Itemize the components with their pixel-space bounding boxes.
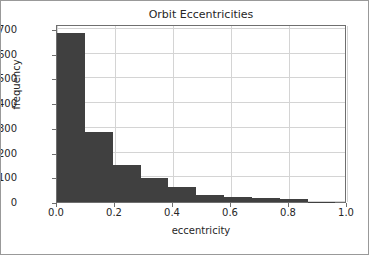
histogram-bar [57,33,85,202]
x-tick-mark [346,203,347,207]
histogram-bar [224,197,252,202]
y-tick-label: 0 [0,198,17,208]
y-tick-label: 500 [0,74,17,84]
x-tick-mark [288,203,289,207]
x-tick-mark [56,203,57,207]
x-tick-label: 0.2 [94,208,134,218]
x-tick-label: 1.0 [326,208,366,218]
y-tick-mark [52,79,56,80]
y-tick-label: 600 [0,50,17,60]
x-tick-mark [114,203,115,207]
y-tick-label: 100 [0,173,17,183]
histogram-bar [280,199,308,202]
y-tick-mark [52,154,56,155]
y-tick-mark [52,30,56,31]
y-tick-label: 700 [0,25,17,35]
x-tick-label: 0.0 [36,208,76,218]
histogram-bar [141,178,169,202]
y-tick-mark [52,129,56,130]
x-tick-label: 0.4 [152,208,192,218]
histogram-bar [168,187,196,202]
y-tick-mark [52,55,56,56]
histogram-bar [252,198,280,202]
y-tick-mark [52,104,56,105]
histogram-bar [85,132,113,202]
histogram-bar [113,165,141,202]
x-axis-label: eccentricity [56,225,346,236]
histogram-bars [57,26,345,202]
x-tick-mark [172,203,173,207]
x-tick-label: 0.8 [268,208,308,218]
gridline-x-1.0 [347,26,348,202]
y-tick-label: 400 [0,99,17,109]
histogram-bar [196,195,224,202]
x-tick-label: 0.6 [210,208,250,218]
y-tick-mark [52,178,56,179]
y-tick-label: 200 [0,149,17,159]
y-tick-label: 300 [0,124,17,134]
figure-container: Orbit Eccentricities frequency eccentric… [0,0,369,255]
chart-title: Orbit Eccentricities [56,7,346,23]
x-tick-mark [230,203,231,207]
plot-area [56,25,346,203]
